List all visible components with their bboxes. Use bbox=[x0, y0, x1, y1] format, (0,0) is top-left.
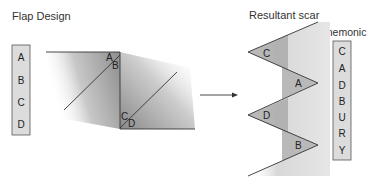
mnemonic-letter: B bbox=[339, 96, 346, 107]
mnemonic-letter: U bbox=[338, 112, 345, 123]
scar-label-d: D bbox=[263, 110, 270, 121]
mnemonic-letter: C bbox=[338, 46, 345, 57]
flap-design-diagram: A B C D bbox=[46, 52, 195, 129]
transformation-arrow bbox=[200, 93, 238, 98]
resultant-scar-diagram: C A D B bbox=[248, 22, 330, 176]
flap-letter: D bbox=[17, 119, 24, 130]
mnemonic-letter: D bbox=[338, 80, 345, 91]
mnemonic-letter: R bbox=[338, 128, 345, 139]
scar-label-c: C bbox=[263, 48, 270, 59]
flap-label-b: B bbox=[112, 60, 119, 71]
mnemonic-letter: A bbox=[339, 63, 346, 74]
flap-letter: A bbox=[18, 52, 25, 63]
diagram-canvas: A B C D A B C D C A D B C A bbox=[0, 0, 376, 187]
mnemonic-letter: Y bbox=[339, 145, 346, 156]
flap-letter-box: A B C D bbox=[12, 45, 30, 135]
mnemonic-box: C A D B U R Y bbox=[333, 41, 351, 160]
scar-label-b: B bbox=[295, 140, 302, 151]
upper-flap-shading bbox=[46, 52, 120, 129]
arrow-head-icon bbox=[232, 93, 238, 98]
scar-label-a: A bbox=[295, 78, 302, 89]
flap-label-d: D bbox=[128, 118, 135, 129]
flap-letter: C bbox=[17, 97, 24, 108]
flap-letter: B bbox=[18, 75, 25, 86]
